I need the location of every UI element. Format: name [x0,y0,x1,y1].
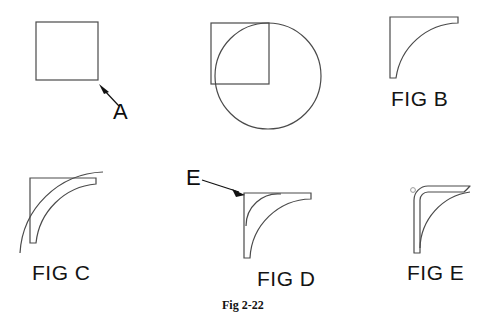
figure-e-bracket [411,186,470,253]
figure-sheet: A E FIG B FIG C FIG D FIG E Fig 2-22 [0,0,500,327]
figure-square-plain [36,22,98,80]
figure-d-bracket [244,193,311,258]
circle-outline [215,23,321,129]
callout-label-a: A [113,101,128,123]
bracket-e-outline [414,186,470,253]
figure-b-bracket [390,17,458,78]
bracket-d-profile [244,193,311,258]
inner-concave-arc-e [420,192,470,248]
figure-label-fig-d: FIG D [257,268,316,289]
figure-label-fig-c: FIG C [32,262,91,283]
figure-label-fig-b: FIG B [391,88,448,109]
figure-label-fig-e: FIG E [407,262,464,283]
figure-c-bracket [20,172,103,253]
arrowhead-a [99,84,109,94]
bracket-c-profile [30,178,96,243]
callout-e-leader [202,180,245,197]
center-mark-circle-e [411,188,416,193]
figure-square-and-circle [211,23,321,129]
square-outline [36,22,98,80]
callout-label-e: E [186,167,201,189]
arrowhead-e [232,189,245,197]
plate-caption: Fig 2-22 [222,299,264,311]
bracket-b-profile [390,17,458,78]
